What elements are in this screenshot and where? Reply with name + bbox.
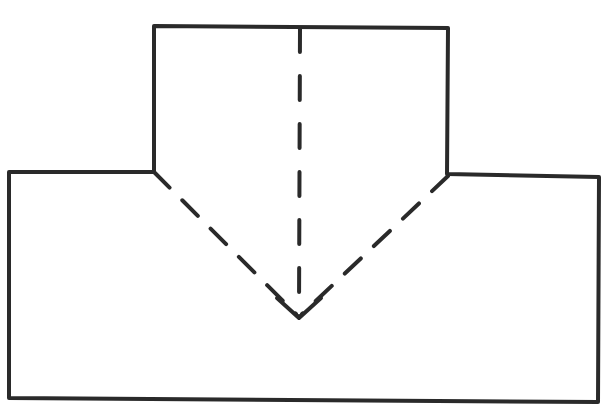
t-shape-outline [9,26,599,402]
right-dashed-fold-line [302,176,448,314]
t-shape-fold-diagram [0,0,602,414]
diagram-canvas [0,0,602,414]
left-dashed-fold-line [154,172,296,314]
center-dashed-line [299,28,300,316]
